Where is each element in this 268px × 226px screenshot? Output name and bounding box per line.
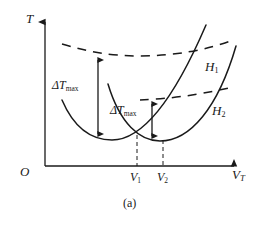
curve-label-h2: H2 xyxy=(212,104,225,119)
delta-t-max-label-2: ΔTmax xyxy=(110,104,137,117)
curve-label-h2-subscript: 2 xyxy=(221,110,225,119)
tick-label-v1-subscript: 1 xyxy=(137,176,141,185)
figure-container: T VT O H1 H2 ΔTmax ΔTmax V1 V2 (a) xyxy=(0,0,268,226)
tick-label-v2-subscript: 2 xyxy=(164,176,168,185)
y-axis-label: T xyxy=(26,12,33,25)
origin-label: O xyxy=(20,165,29,178)
delta-t-max-label-2-base: ΔT xyxy=(110,103,124,117)
tick-label-v2: V2 xyxy=(157,171,168,184)
x-axis-label-base: V xyxy=(232,167,240,182)
tick-label-v1: V1 xyxy=(130,171,141,184)
delta-t-max-label-1-base: ΔT xyxy=(52,78,66,92)
dashed-curve-upper xyxy=(62,40,233,56)
curve-label-h2-base: H xyxy=(212,103,221,118)
curve-label-h1-base: H xyxy=(205,59,214,74)
x-axis-label: VT xyxy=(232,168,245,183)
curve-h1 xyxy=(62,25,206,140)
x-axis-label-subscript: T xyxy=(240,173,245,183)
figure-caption: (a) xyxy=(123,197,136,209)
delta-t-max-label-2-subscript: max xyxy=(124,109,137,118)
curve-label-h1: H1 xyxy=(205,60,218,75)
delta-t-max-label-1-subscript: max xyxy=(66,84,79,93)
curve-label-h1-subscript: 1 xyxy=(214,66,218,75)
delta-t-max-label-1: ΔTmax xyxy=(52,79,79,92)
